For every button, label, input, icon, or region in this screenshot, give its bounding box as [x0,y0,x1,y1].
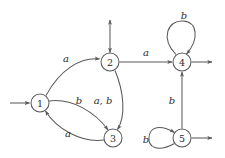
edge-label-4-self-loop: b [181,10,187,21]
edge-label-1-to-2: a [63,53,69,64]
edge-5-self-loop [149,128,175,149]
edge-2-to-3 [115,71,123,130]
state-node-2[interactable]: 2 [101,53,119,71]
state-node-5[interactable]: 5 [173,129,191,147]
state-node-4[interactable]: 4 [173,53,191,71]
edge-label-2-to-3: a, b [94,95,113,106]
state-node-3[interactable]: 3 [104,129,122,147]
state-label-4: 4 [179,57,185,68]
state-label-5: 5 [179,133,185,144]
edge-label-1-to-3: b [76,95,82,106]
edge-4-self-loop [167,21,195,55]
state-node-1[interactable]: 1 [31,94,49,112]
edge-label-5-self-loop: b [143,134,149,145]
state-label-2: 2 [107,57,113,68]
state-label-3: 3 [110,133,116,144]
edge-1-to-2 [46,59,100,96]
edge-label-5-to-4: b [169,95,175,106]
edge-3-to-1 [46,111,105,140]
diagram-canvas: a b a a, b a b b b 1 2 3 [0,0,225,158]
edge-label-3-to-1: a [65,128,71,139]
edge-label-2-to-4: a [143,47,149,58]
state-label-1: 1 [37,98,43,109]
automaton-svg: a b a a, b a b b b 1 2 3 [0,0,225,158]
